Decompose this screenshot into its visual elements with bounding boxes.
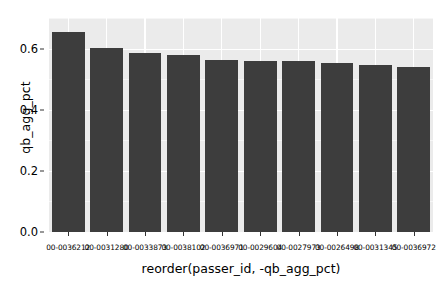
- y-tick-mark: [40, 232, 44, 233]
- x-tick-label: 00-0036212: [46, 243, 90, 252]
- x-tick-label: 00-0038102: [161, 243, 205, 252]
- y-tick-mark: [40, 109, 44, 110]
- x-tick-mark: [299, 232, 300, 236]
- y-tick-label: 0.2: [20, 164, 38, 178]
- chart-figure: qb_agg_pct 0.00.20.40.6 00-003621200-003…: [0, 0, 441, 291]
- bar: [167, 55, 200, 232]
- bar: [129, 53, 162, 232]
- x-tick-mark: [337, 232, 338, 236]
- y-tick-label: 0.0: [20, 225, 38, 239]
- bar: [397, 67, 430, 232]
- y-tick-label: 0.4: [20, 103, 38, 117]
- x-axis-title: reorder(passer_id, -qb_agg_pct): [49, 261, 433, 276]
- x-tick-mark: [260, 232, 261, 236]
- x-tick-mark: [375, 232, 376, 236]
- x-axis-tick-marks: [49, 232, 433, 238]
- x-tick-mark: [183, 232, 184, 236]
- bar: [321, 63, 354, 232]
- bar: [52, 32, 85, 232]
- plot-panel: [49, 18, 433, 232]
- x-tick-label: 00-0029604: [238, 243, 282, 252]
- x-tick-mark: [68, 232, 69, 236]
- x-tick-label: 00-0027973: [277, 243, 321, 252]
- x-tick-label: 00-0026498: [315, 243, 359, 252]
- x-tick-label: 00-0033873: [123, 243, 167, 252]
- x-axis-tick-labels: 00-003621200-003128000-003387300-0038102…: [0, 243, 441, 257]
- y-tick-mark: [40, 48, 44, 49]
- bar: [205, 60, 238, 232]
- y-tick-label: 0.6: [20, 42, 38, 56]
- bar: [244, 61, 277, 232]
- bar: [359, 65, 392, 232]
- x-tick-label: 00-0036972: [392, 243, 436, 252]
- x-tick-label: 00-0036971: [200, 243, 244, 252]
- x-tick-label: 00-0031345: [353, 243, 397, 252]
- y-tick-mark: [40, 170, 44, 171]
- bar: [282, 61, 315, 232]
- x-tick-mark: [222, 232, 223, 236]
- x-tick-label: 00-0031280: [85, 243, 129, 252]
- x-tick-mark: [145, 232, 146, 236]
- bar: [90, 48, 123, 232]
- x-tick-mark: [107, 232, 108, 236]
- x-tick-mark: [414, 232, 415, 236]
